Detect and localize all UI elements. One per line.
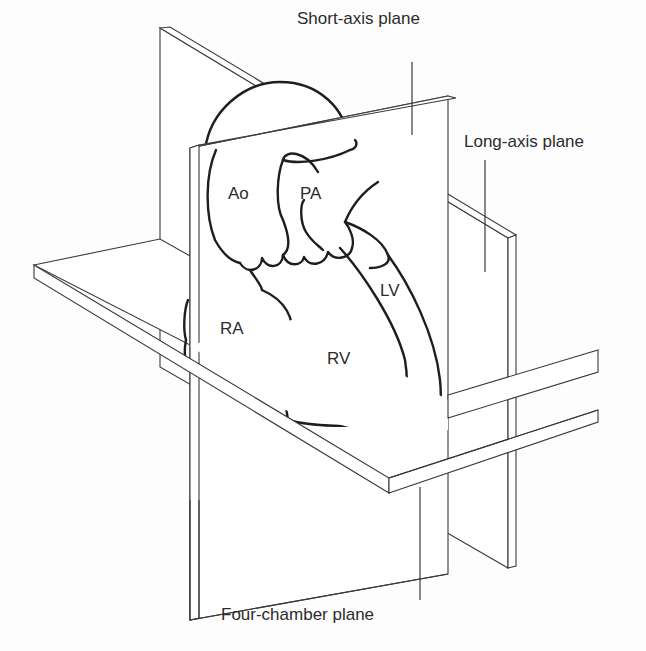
aorta-label: Ao — [228, 185, 249, 202]
left-ventricle-label: LV — [380, 282, 400, 299]
long-axis-plane-label: Long-axis plane — [464, 133, 584, 150]
cardiac-imaging-planes-diagram: Short-axis plane Long-axis plane Four-ch… — [0, 0, 646, 651]
right-ventricle-label: RV — [327, 350, 350, 367]
planes-illustration — [0, 0, 646, 651]
right-atrium-label: RA — [220, 320, 244, 337]
short-axis-plane-label: Short-axis plane — [297, 10, 420, 27]
pulmonary-artery-label: PA — [300, 185, 321, 202]
four-chamber-plane-label: Four-chamber plane — [221, 606, 374, 623]
